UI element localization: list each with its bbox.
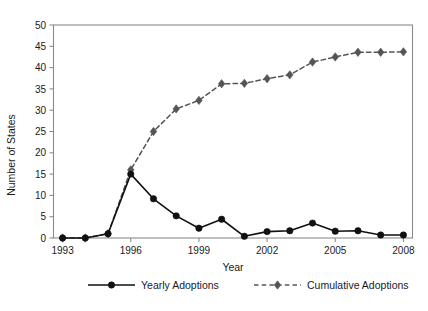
data-point-marker — [173, 213, 179, 219]
y-tick-label: 20 — [35, 147, 47, 158]
y-tick-label: 30 — [35, 105, 47, 116]
legend-label: Yearly Adoptions — [141, 279, 219, 291]
data-point-marker — [309, 220, 315, 226]
legend-label: Cumulative Adoptions — [307, 279, 409, 291]
data-point-marker — [287, 228, 293, 234]
x-tick-label: 1996 — [120, 245, 143, 256]
x-tick-label: 1993 — [51, 245, 74, 256]
x-tick-label: 2002 — [256, 245, 279, 256]
x-tick-label: 1999 — [188, 245, 211, 256]
data-point-marker — [150, 196, 156, 202]
data-point-marker — [218, 216, 224, 222]
y-axis-title: Number of States — [5, 114, 17, 196]
data-point-marker — [377, 232, 383, 238]
y-tick-label: 10 — [35, 190, 47, 201]
chart-container: 05101520253035404550 1993199619992002200… — [0, 0, 428, 311]
y-tick-label: 15 — [35, 169, 47, 180]
chart-background — [0, 0, 428, 311]
y-tick-label: 50 — [35, 20, 47, 31]
data-point-marker — [128, 171, 134, 177]
data-point-marker — [196, 225, 202, 231]
data-point-marker — [108, 282, 114, 288]
y-tick-label: 45 — [35, 41, 47, 52]
y-tick-label: 40 — [35, 62, 47, 73]
data-point-marker — [355, 228, 361, 234]
line-chart: 05101520253035404550 1993199619992002200… — [0, 0, 428, 311]
y-tick-label: 25 — [35, 126, 47, 137]
x-axis-title: Year — [222, 261, 244, 273]
y-tick-label: 35 — [35, 84, 47, 95]
data-point-marker — [264, 228, 270, 234]
data-point-marker — [241, 233, 247, 239]
data-point-marker — [82, 235, 88, 241]
data-point-marker — [332, 228, 338, 234]
x-tick-label: 2005 — [324, 245, 347, 256]
data-point-marker — [105, 231, 111, 237]
data-point-marker — [59, 235, 65, 241]
y-tick-label: 0 — [40, 233, 46, 244]
y-tick-label: 5 — [40, 211, 46, 222]
x-tick-label: 2008 — [392, 245, 415, 256]
data-point-marker — [400, 232, 406, 238]
